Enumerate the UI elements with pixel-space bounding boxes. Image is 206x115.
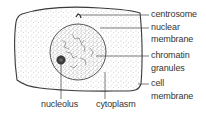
label-nuclear-membrane-line1: nuclear xyxy=(151,23,180,32)
label-chromatin-granules-line2: granules xyxy=(151,64,185,73)
label-cell-membrane-line1: cell xyxy=(151,79,164,88)
label-cell-membrane-line2: membrane xyxy=(151,92,193,101)
nucleus xyxy=(50,24,106,80)
label-centrosome: centrosome xyxy=(151,10,197,19)
label-nucleolus: nucleolus xyxy=(41,100,78,109)
label-cytoplasm: cytoplasm xyxy=(96,100,136,109)
label-nuclear-membrane-line2: membrane xyxy=(151,35,193,44)
label-chromatin-granules-line1: chromatin xyxy=(151,51,190,60)
